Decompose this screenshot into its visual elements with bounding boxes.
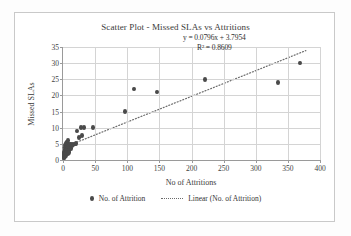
x-tick-mark (320, 160, 321, 163)
y-tick-label: 35 (52, 43, 60, 52)
data-point (82, 125, 86, 130)
x-gridline (95, 47, 96, 160)
trendline-r2-label: R² = 0.8609 (197, 43, 232, 52)
data-point (132, 87, 136, 92)
data-point (276, 80, 280, 85)
legend-item[interactable]: No. of Attrition (90, 194, 145, 203)
x-tick-mark (192, 160, 193, 163)
x-tick-mark (63, 160, 64, 163)
x-gridline (224, 47, 225, 160)
data-point (75, 129, 79, 134)
chart-title: Scatter Plot - Missed SLAs vs Attritions (15, 22, 336, 32)
y-axis-title: Missed SLAs (27, 82, 36, 125)
x-gridline (192, 47, 193, 160)
y-tick-mark (60, 95, 63, 96)
x-gridline (320, 47, 321, 160)
y-tick-label: 10 (52, 123, 60, 132)
y-tick-mark (60, 63, 63, 64)
data-point (91, 125, 95, 130)
legend-label: No. of Attrition (99, 194, 145, 203)
x-gridline (127, 47, 128, 160)
legend-dotted-line-icon (161, 198, 183, 199)
y-tick-label: 5 (55, 139, 59, 148)
chart-legend: No. of AttritionLinear (No. of Attrition… (15, 194, 336, 203)
y-tick-label: 0 (55, 156, 59, 165)
x-axis-title: No of Attritions (62, 178, 320, 187)
legend-label: Linear (No. of Attrition) (188, 194, 261, 203)
x-tick-label: 300 (250, 164, 261, 173)
chart-frame: Scatter Plot - Missed SLAs vs Attritions… (14, 12, 335, 222)
data-point (80, 133, 84, 138)
y-tick-mark (60, 128, 63, 129)
x-tick-label: 350 (282, 164, 293, 173)
legend-dot-icon (90, 196, 94, 201)
x-gridline (288, 47, 289, 160)
data-point (298, 61, 302, 66)
x-tick-label: 200 (186, 164, 197, 173)
x-gridline (159, 47, 160, 160)
x-tick-label: 250 (218, 164, 229, 173)
x-tick-label: 0 (61, 164, 65, 173)
data-point (203, 77, 207, 82)
x-tick-label: 400 (314, 164, 325, 173)
y-tick-label: 30 (52, 59, 60, 68)
y-tick-mark (60, 112, 63, 113)
y-tick-mark (60, 79, 63, 80)
y-tick-label: 15 (52, 107, 60, 116)
x-tick-mark (127, 160, 128, 163)
x-tick-label: 100 (122, 164, 133, 173)
x-tick-mark (224, 160, 225, 163)
legend-item[interactable]: Linear (No. of Attrition) (161, 194, 261, 203)
x-tick-mark (288, 160, 289, 163)
x-tick-mark (159, 160, 160, 163)
trendline-equation-label: y = 0.0796x + 3.7954 (183, 33, 246, 42)
y-tick-label: 25 (52, 75, 60, 84)
x-tick-label: 150 (154, 164, 165, 173)
x-tick-mark (95, 160, 96, 163)
x-tick-label: 50 (91, 164, 99, 173)
plot-area: 05101520253035050100150200250300350400 (62, 47, 320, 161)
y-tick-mark (60, 47, 63, 48)
x-gridline (256, 47, 257, 160)
x-tick-mark (256, 160, 257, 163)
data-point (74, 141, 78, 146)
y-tick-label: 20 (52, 91, 60, 100)
